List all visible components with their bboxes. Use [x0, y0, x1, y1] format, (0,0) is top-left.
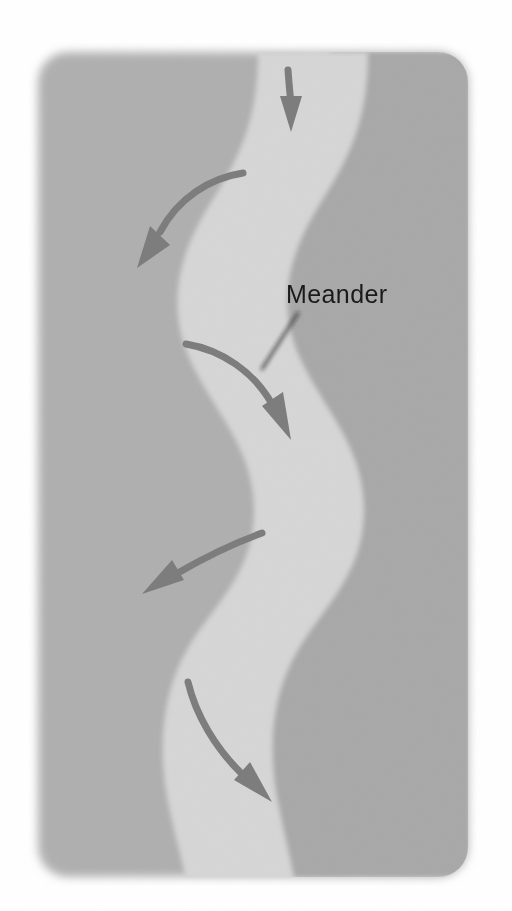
- paper-grain-overlay: [0, 0, 512, 911]
- river-meander-figure: Meander: [0, 0, 512, 911]
